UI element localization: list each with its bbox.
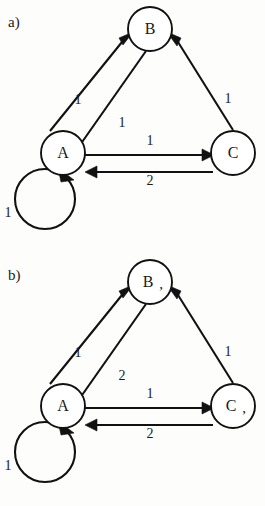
edge-a-self-loop-weight: 1 <box>5 458 12 473</box>
edge-a-to-c-weight: 1 <box>147 386 154 401</box>
edge-b-to-a-weight: 2 <box>119 368 126 383</box>
panel-b: b) 1 2 1 1 <box>0 253 265 506</box>
edge-b-to-a-weight: 1 <box>119 115 126 130</box>
node-a: A <box>41 384 85 428</box>
edge-c-to-b-weight: 1 <box>225 344 232 359</box>
edge-b-to-a-line <box>80 51 146 145</box>
edge-a-to-c: 1 <box>85 133 214 161</box>
figure-canvas: a) 1 1 1 1 <box>0 0 265 506</box>
panel-b-graph: 1 2 1 1 <box>0 253 265 506</box>
node-c: C , <box>211 384 255 428</box>
node-b: B , <box>128 260 172 304</box>
edge-a-self-loop: 1 <box>5 168 76 229</box>
edge-a-to-b-weight: 1 <box>75 92 82 107</box>
node-b-mark: , <box>159 276 163 292</box>
node-b-label: B <box>143 273 154 290</box>
edge-b-to-a-line <box>80 304 146 398</box>
edge-a-self-loop-weight: 1 <box>5 205 12 220</box>
edge-a-self-loop: 1 <box>5 421 76 482</box>
edge-c-to-a-arrowhead <box>85 166 97 178</box>
node-a: A <box>41 131 85 175</box>
edge-c-to-a: 2 <box>85 419 213 441</box>
node-b-label: B <box>145 20 156 37</box>
edge-c-to-a: 2 <box>85 166 213 188</box>
node-b: B <box>128 7 172 51</box>
node-c: C <box>211 131 255 175</box>
edge-c-to-b-line <box>178 295 233 383</box>
node-a-label: A <box>57 144 69 161</box>
edge-c-to-a-weight: 2 <box>147 426 154 441</box>
panel-a-graph: 1 1 1 1 <box>0 0 265 253</box>
node-c-label: C <box>228 144 239 161</box>
panel-a: a) 1 1 1 1 <box>0 0 265 253</box>
edge-a-to-c-weight: 1 <box>147 133 154 148</box>
node-a-label: A <box>57 397 69 414</box>
edge-c-to-b: 1 <box>167 285 233 383</box>
node-c-label: C <box>226 397 237 414</box>
edge-a-to-b-weight: 1 <box>75 345 82 360</box>
edge-c-to-b-weight: 1 <box>225 91 232 106</box>
edge-a-to-b-line <box>50 42 122 131</box>
edge-a-to-b-line <box>50 295 122 384</box>
edge-a-to-c: 1 <box>85 386 214 414</box>
node-c-mark: , <box>242 400 246 416</box>
edge-c-to-a-weight: 2 <box>147 173 154 188</box>
edge-c-to-a-arrowhead <box>85 419 97 431</box>
edge-c-to-b: 1 <box>167 32 233 130</box>
edge-c-to-b-line <box>178 42 233 130</box>
